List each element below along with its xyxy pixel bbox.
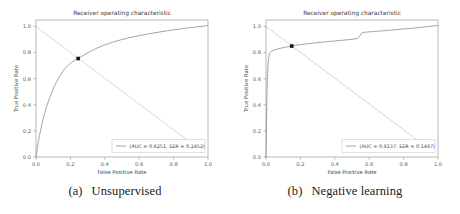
caption-a: (a) Unsupervised [0,180,230,214]
caption-a-tag: (a) [68,184,82,199]
roc-plot-b: Receiver operating characteristic 0.0 0.… [230,0,460,180]
svg-text:1.0: 1.0 [23,23,31,29]
chart-title-a: Receiver operating characteristic [73,10,171,17]
y-tick-a-1: 0.2 [23,128,36,134]
roc-figure-row: Receiver operating characteristic 0.0 0.… [0,0,460,180]
y-tick-b-3: 0.6 [253,76,266,82]
x-ticks-a: 0.0 0.2 0.4 0.6 0.8 1.0 [32,157,212,167]
legend-b: (AUC = 0.9137, EER = 0.1497) [342,140,435,153]
svg-text:0.2: 0.2 [296,161,304,167]
x-tick-b-1: 0.2 [296,157,304,167]
y-tick-b-4: 0.8 [253,49,266,55]
x-tick-b-3: 0.6 [365,157,373,167]
y-ticks-b: 0.0 0.2 0.4 0.6 0.8 1.0 [253,23,266,160]
svg-text:1.0: 1.0 [204,161,212,167]
subfigure-a: Receiver operating characteristic 0.0 0.… [0,0,230,180]
x-tick-a-3: 0.6 [135,157,143,167]
svg-text:0.6: 0.6 [135,161,143,167]
y-tick-a-4: 0.8 [23,49,36,55]
y-tick-b-1: 0.2 [253,128,266,134]
y-ticks-a: 0.0 0.2 0.4 0.6 0.8 1.0 [23,23,36,160]
x-tick-a-2: 0.4 [101,157,110,167]
chart-title-b: Receiver operating characteristic [303,10,401,17]
y-axis-label-b: True Positive Rate [243,65,249,113]
caption-b: (b) Negative learning [230,180,460,214]
svg-text:1.0: 1.0 [253,23,261,29]
y-tick-a-5: 1.0 [23,23,36,29]
svg-text:0.8: 0.8 [399,161,407,167]
svg-text:0.0: 0.0 [32,161,40,167]
x-tick-b-4: 0.8 [399,157,407,167]
svg-text:0.6: 0.6 [365,161,373,167]
x-tick-b-0: 0.0 [262,157,270,167]
x-tick-a-0: 0.0 [32,157,40,167]
y-tick-a-2: 0.4 [23,102,36,108]
y-tick-a-0: 0.0 [23,154,36,160]
svg-text:0.0: 0.0 [253,154,261,160]
svg-text:0.0: 0.0 [262,161,270,167]
x-tick-b-2: 0.4 [331,157,340,167]
caption-a-text: Unsupervised [92,184,162,199]
svg-text:0.8: 0.8 [169,161,177,167]
roc-plot-a: Receiver operating characteristic 0.0 0.… [0,0,230,180]
legend-label-a: (AUC = 0.8251, EER = 0.2452) [130,143,206,149]
svg-text:0.2: 0.2 [23,128,31,134]
svg-text:0.2: 0.2 [253,128,261,134]
y-tick-b-0: 0.0 [253,154,266,160]
svg-text:0.2: 0.2 [66,161,74,167]
x-tick-a-1: 0.2 [66,157,74,167]
svg-text:0.6: 0.6 [23,76,31,82]
x-tick-a-5: 1.0 [204,157,212,167]
eer-marker-a [76,57,80,61]
legend-a: (AUC = 0.8251, EER = 0.2452) [112,140,205,153]
svg-text:0.4: 0.4 [23,102,32,108]
caption-b-text: Negative learning [311,184,402,199]
roc-chart-b-svg: Receiver operating characteristic 0.0 0.… [230,0,460,180]
legend-label-b: (AUC = 0.9137, EER = 0.1497) [360,143,436,149]
x-tick-a-4: 0.8 [169,157,177,167]
roc-chart-a-svg: Receiver operating characteristic 0.0 0.… [0,0,230,180]
x-axis-label-a: False Positive Rate [97,169,146,175]
y-tick-b-5: 1.0 [253,23,266,29]
x-axis-label-b: False Positive Rate [327,169,376,175]
x-tick-b-5: 1.0 [434,157,442,167]
svg-text:0.4: 0.4 [253,102,262,108]
eer-marker-b [290,44,294,48]
svg-text:0.0: 0.0 [23,154,31,160]
svg-text:0.6: 0.6 [253,76,261,82]
y-axis-label-a: True Positive Rate [13,65,19,113]
svg-text:0.8: 0.8 [23,49,31,55]
subfigure-b: Receiver operating characteristic 0.0 0.… [230,0,460,180]
caption-b-tag: (b) [288,184,303,199]
svg-text:0.4: 0.4 [331,161,340,167]
svg-text:0.4: 0.4 [101,161,110,167]
x-ticks-b: 0.0 0.2 0.4 0.6 0.8 1.0 [262,157,442,167]
y-tick-a-3: 0.6 [23,76,36,82]
y-tick-b-2: 0.4 [253,102,266,108]
caption-row: (a) Unsupervised (b) Negative learning [0,180,460,214]
svg-text:1.0: 1.0 [434,161,442,167]
svg-text:0.8: 0.8 [253,49,261,55]
